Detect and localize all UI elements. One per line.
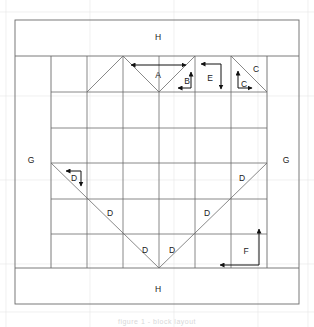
block-outer-border xyxy=(15,20,299,304)
label-D-farright: D xyxy=(239,173,245,183)
label-D-right: D xyxy=(204,208,210,218)
inner-piecing-grid xyxy=(51,56,267,268)
figure-canvas: H A B E C C G G D D D D D D F H figure 1… xyxy=(0,0,314,327)
label-H-bottom: H xyxy=(155,284,161,294)
figure-caption: figure 1 - block layout xyxy=(0,318,314,325)
sashing-h-rows xyxy=(15,56,299,268)
label-D-bottomleft: D xyxy=(142,245,148,255)
label-B: B xyxy=(184,76,190,86)
label-E: E xyxy=(207,73,213,83)
label-C-lower: C xyxy=(241,79,247,89)
label-G-left: G xyxy=(28,155,35,165)
quilt-block-diagram: H A B E C C G G D D D D D D F H xyxy=(0,0,314,327)
label-G-right: G xyxy=(283,155,290,165)
label-D-left: D xyxy=(107,208,113,218)
label-F: F xyxy=(243,246,248,256)
label-C-upper: C xyxy=(253,64,259,74)
label-H-top: H xyxy=(155,32,161,42)
label-D-corner: D xyxy=(71,173,77,183)
label-D-bottomright: D xyxy=(169,245,175,255)
label-A: A xyxy=(155,70,161,80)
